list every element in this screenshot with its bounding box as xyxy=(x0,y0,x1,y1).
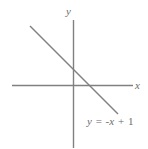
y-axis-label: y xyxy=(66,6,71,17)
equation-slope-term: -x xyxy=(106,115,115,127)
coordinate-plane-figure: y x y = -x + 1 xyxy=(0,0,148,149)
equation-label: y = -x + 1 xyxy=(87,116,133,127)
equation-intercept: 1 xyxy=(128,115,134,127)
x-axis-label: x xyxy=(135,80,140,91)
equation-plus-sign: + xyxy=(117,115,125,127)
equation-lhs: y xyxy=(87,115,92,127)
equation-equals-sign: = xyxy=(95,115,103,127)
